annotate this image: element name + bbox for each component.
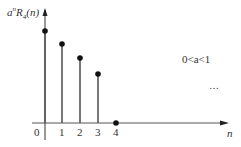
y-axis-arrow-icon	[43, 8, 48, 16]
tick-1: 1	[59, 127, 65, 138]
condition-text: 0<a<1	[182, 53, 210, 65]
stems	[45, 31, 98, 123]
y-axis-label: anR4(n)	[7, 6, 39, 21]
x-axis-arrow-icon	[220, 121, 229, 126]
tick-4: 4	[113, 127, 119, 138]
y-label-arg: (n)	[26, 6, 39, 18]
ellipsis-annotation: …	[209, 81, 219, 91]
condition-annotation: 0<a<1	[182, 54, 210, 65]
tick-3: 3	[95, 127, 101, 138]
tick-0: 0	[34, 127, 40, 138]
tick-2: 2	[77, 127, 83, 138]
stem-plot	[0, 0, 241, 147]
x-axis-label: n	[227, 128, 233, 139]
y-label-R: R	[16, 6, 23, 18]
